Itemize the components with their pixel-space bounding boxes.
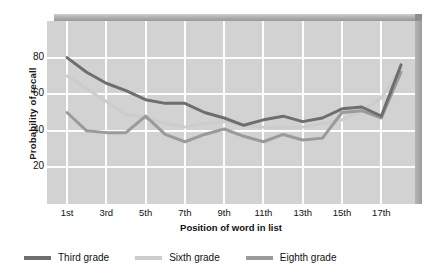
x-tick-label: 9th xyxy=(218,207,231,218)
series-line-sixth-grade xyxy=(67,69,401,128)
y-tick-label: 40 xyxy=(4,124,44,135)
plot-area xyxy=(47,14,422,204)
x-tick-label: 11th xyxy=(255,207,273,218)
x-axis-tick-labels: 1st3rd5th7th9th11th13th15th17th xyxy=(47,207,422,223)
data-lines xyxy=(47,21,415,204)
legend-swatch-icon xyxy=(246,256,273,260)
x-axis-title: Position of word in list xyxy=(47,222,415,233)
plot-canvas xyxy=(47,21,415,204)
y-axis-tick-labels: 20406080 xyxy=(0,14,44,204)
legend-label: Sixth grade xyxy=(169,252,220,263)
y-tick-label: 20 xyxy=(4,160,44,171)
x-tick-label: 5th xyxy=(139,207,152,218)
plot-right-bevel xyxy=(415,14,422,204)
y-tick-label: 60 xyxy=(4,87,44,98)
legend-item[interactable]: Third grade xyxy=(24,252,109,263)
x-tick-label: 3rd xyxy=(99,207,113,218)
x-tick-label: 15th xyxy=(333,207,352,218)
x-tick-label: 1st xyxy=(61,207,74,218)
legend-item[interactable]: Sixth grade xyxy=(135,252,220,263)
x-tick-label: 17th xyxy=(372,207,391,218)
plot-top-bevel xyxy=(54,14,422,21)
serial-position-chart: Probability of recall 20406080 1st3rd5th… xyxy=(0,0,432,280)
plot-corner-bevel xyxy=(415,14,422,21)
x-tick-label: 7th xyxy=(178,207,191,218)
legend-label: Third grade xyxy=(58,252,109,263)
legend-item[interactable]: Eighth grade xyxy=(246,252,337,263)
x-tick-label: 13th xyxy=(294,207,313,218)
legend-swatch-icon xyxy=(24,256,51,260)
legend-swatch-icon xyxy=(135,256,162,260)
legend-label: Eighth grade xyxy=(280,252,337,263)
chart-legend: Third gradeSixth gradeEighth grade xyxy=(24,252,362,263)
y-tick-label: 80 xyxy=(4,51,44,62)
